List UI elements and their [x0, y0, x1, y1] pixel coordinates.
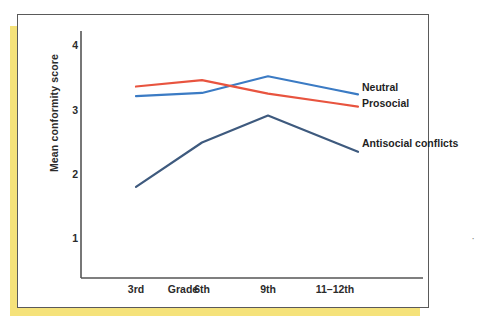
- y-tick-label-3: 3: [56, 104, 78, 116]
- series-label-neutral: Neutral: [362, 81, 398, 93]
- x-axis-title: Grade: [18, 283, 348, 295]
- y-tick-label-1: 1: [56, 232, 78, 244]
- scan-artifact-mark: ·: [471, 232, 475, 244]
- series-line-neutral: [136, 76, 358, 96]
- figure-card: Mean conformity score 4 3 2 1 3rd 6th 9t…: [17, 14, 429, 308]
- plot-area: Mean conformity score 4 3 2 1 3rd 6th 9t…: [18, 15, 430, 309]
- series-label-antisocial-conflicts: Antisocial conflicts: [362, 137, 458, 149]
- line-chart-canvas: [18, 15, 430, 309]
- series-line-antisocial-conflicts: [136, 115, 358, 186]
- y-tick-label-2: 2: [56, 168, 78, 180]
- figure-page: Mean conformity score 4 3 2 1 3rd 6th 9t…: [0, 0, 493, 331]
- series-line-prosocial: [136, 80, 358, 106]
- y-tick-label-4: 4: [56, 39, 78, 51]
- series-label-prosocial: Prosocial: [362, 97, 409, 109]
